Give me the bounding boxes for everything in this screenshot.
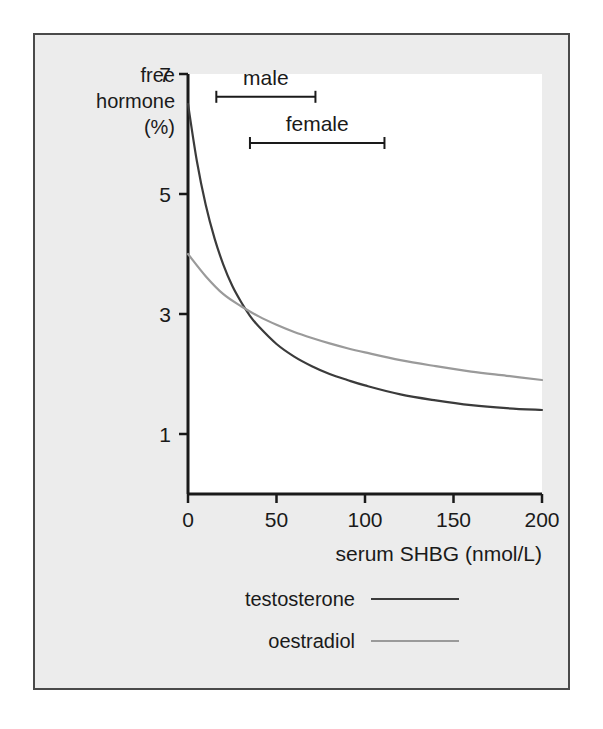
legend-label-oestradiol: oestradiol	[268, 630, 355, 652]
x-tick-label: 0	[182, 508, 194, 531]
x-tick-label: 200	[524, 508, 559, 531]
legend-label-testosterone: testosterone	[245, 588, 355, 610]
x-tick-label: 100	[347, 508, 382, 531]
x-tick-label: 50	[265, 508, 288, 531]
x-axis-tick-labels: 050100150200	[182, 508, 559, 531]
range-label-male: male	[243, 66, 289, 89]
figure-frame: 1357 050100150200 free hormone (%) serum…	[33, 33, 570, 690]
chart-legend: testosteroneoestradiol	[245, 588, 459, 652]
figure-canvas: 1357 050100150200 free hormone (%) serum…	[35, 35, 568, 688]
y-tick-label: 1	[159, 423, 171, 446]
y-tick-label: 5	[159, 183, 171, 206]
x-tick-label: 150	[436, 508, 471, 531]
chart-svg: 1357 050100150200 free hormone (%) serum…	[35, 35, 568, 688]
y-axis-title-line-2: hormone	[96, 90, 175, 112]
plot-area-background	[188, 74, 542, 494]
y-axis-title-line-1: free	[141, 64, 175, 86]
x-axis-title: serum SHBG (nmol/L)	[335, 542, 542, 565]
y-tick-label: 3	[159, 303, 171, 326]
y-axis-title-line-3: (%)	[144, 116, 175, 138]
range-label-female: female	[286, 112, 349, 135]
